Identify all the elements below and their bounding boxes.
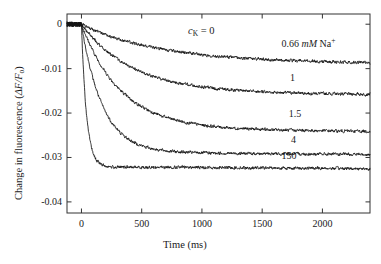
series-label-0.66mM: 0.66 mM Na+ bbox=[281, 39, 335, 49]
series-label-1mM: 1 bbox=[290, 73, 295, 83]
x-tick-label-2: 1000 bbox=[182, 219, 222, 229]
x-tick-label-3: 1500 bbox=[242, 219, 282, 229]
series-label-charge: + bbox=[331, 36, 335, 45]
series-label-4mM: 4 bbox=[291, 135, 296, 145]
series-label-value: 0.66 bbox=[281, 38, 301, 49]
x-tick-label-1: 500 bbox=[122, 219, 162, 229]
series-label-1.5mM: 1.5 bbox=[289, 109, 302, 119]
panel-title-annotation: cK = 0 bbox=[188, 26, 215, 37]
y-tick-label-4: -0.04 bbox=[18, 197, 62, 207]
y-axis-title-delta-f: ΔF/F bbox=[13, 73, 24, 95]
y-tick-label-3: -0.03 bbox=[18, 152, 62, 162]
y-tick-label-2: -0.02 bbox=[18, 108, 62, 118]
figure-panel: cK = 0 Change in fluorescence (ΔF/Fo) Ti… bbox=[0, 0, 381, 264]
y-tick-label-0: 0 bbox=[18, 19, 62, 29]
curve-1mM bbox=[67, 22, 370, 96]
x-tick-label-4: 2000 bbox=[302, 219, 342, 229]
series-label-ion: Na bbox=[317, 38, 331, 49]
y-axis-title: Change in fluorescence (ΔF/Fo) bbox=[14, 66, 25, 200]
series-label-unit: mM bbox=[301, 38, 317, 49]
y-tick-label-1: -0.01 bbox=[18, 64, 62, 74]
panel-title-symbol: c bbox=[188, 25, 193, 36]
panel-title-rest: = 0 bbox=[198, 25, 214, 36]
x-tick-label-0: 0 bbox=[61, 219, 101, 229]
series-label-150mM: 150 bbox=[281, 151, 296, 161]
x-axis-title: Time (ms) bbox=[163, 240, 207, 251]
panel-title-subscript: K bbox=[193, 29, 198, 38]
